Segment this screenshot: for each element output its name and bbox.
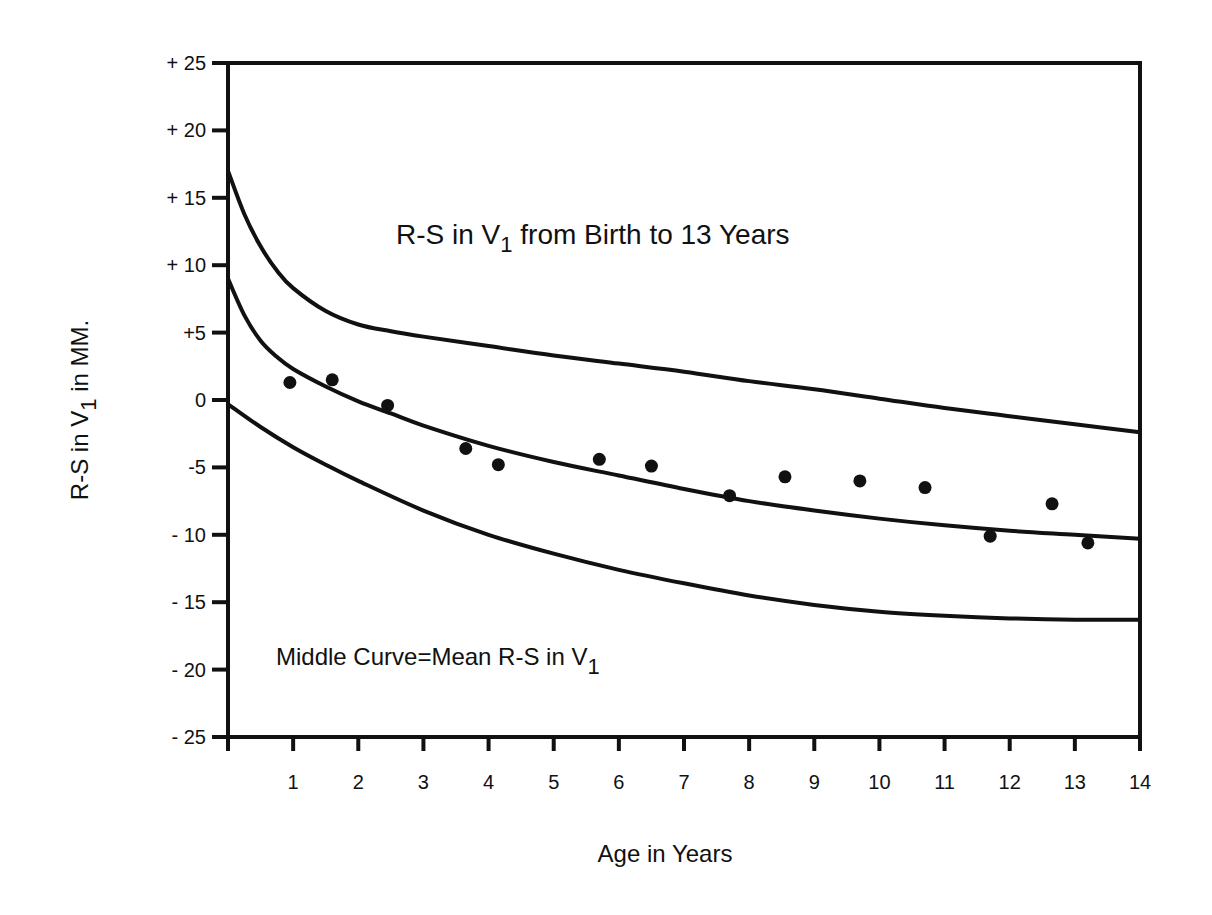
- chart-title: R-S in V1 from Birth to 13 Years: [396, 219, 790, 257]
- x-tick-label: 7: [678, 771, 689, 793]
- data-point: [283, 376, 296, 389]
- x-tick-label: 1: [288, 771, 299, 793]
- data-points: [283, 373, 1094, 549]
- y-tick-label: + 20: [167, 119, 206, 141]
- data-point: [645, 460, 658, 473]
- x-tick-label: 8: [744, 771, 755, 793]
- x-tick-label: 3: [418, 771, 429, 793]
- x-axis-ticks: 1234567891011121314: [288, 737, 1152, 793]
- y-tick-label: + 15: [167, 187, 206, 209]
- curve-line-1: [228, 279, 1140, 539]
- x-tick-label: 12: [999, 771, 1021, 793]
- x-tick-label: 5: [548, 771, 559, 793]
- data-point: [723, 489, 736, 502]
- data-point: [919, 481, 932, 494]
- y-tick-label: -5: [188, 456, 206, 478]
- data-point: [381, 399, 394, 412]
- y-tick-label: 0: [195, 389, 206, 411]
- y-tick-label: - 25: [172, 726, 206, 748]
- data-point: [778, 470, 791, 483]
- x-tick-label: 4: [483, 771, 494, 793]
- data-point: [1081, 536, 1094, 549]
- annotation-middle-curve: Middle Curve=Mean R-S in V1: [276, 643, 600, 679]
- plot-frame: [228, 63, 1140, 737]
- data-point: [853, 474, 866, 487]
- x-tick-label: 10: [868, 771, 890, 793]
- x-tick-label: 14: [1129, 771, 1151, 793]
- y-tick-label: - 15: [172, 591, 206, 613]
- x-tick-label: 9: [809, 771, 820, 793]
- x-tick-label: 2: [353, 771, 364, 793]
- y-tick-label: + 10: [167, 254, 206, 276]
- curve-line-0: [228, 171, 1140, 433]
- plot-border: [228, 63, 1140, 737]
- x-tick-label: 13: [1064, 771, 1086, 793]
- data-point: [1046, 497, 1059, 510]
- data-point: [593, 453, 606, 466]
- y-axis-label: R-S in V1 in MM.: [66, 320, 101, 500]
- data-point: [492, 458, 505, 471]
- data-point: [984, 530, 997, 543]
- y-tick-label: + 25: [167, 52, 206, 74]
- data-point: [326, 373, 339, 386]
- y-tick-label: - 10: [172, 524, 206, 546]
- x-tick-label: 11: [934, 771, 955, 793]
- x-tick-label: 6: [613, 771, 624, 793]
- x-axis-label: Age in Years: [598, 840, 733, 867]
- y-tick-label: +5: [183, 322, 206, 344]
- data-point: [459, 442, 472, 455]
- y-tick-label: - 20: [172, 659, 206, 681]
- chart: + 25+ 20+ 15+ 10+50-5- 10- 15- 20- 25 12…: [0, 0, 1212, 915]
- curve-line-2: [228, 404, 1140, 620]
- y-axis-ticks: + 25+ 20+ 15+ 10+50-5- 10- 15- 20- 25: [167, 52, 228, 751]
